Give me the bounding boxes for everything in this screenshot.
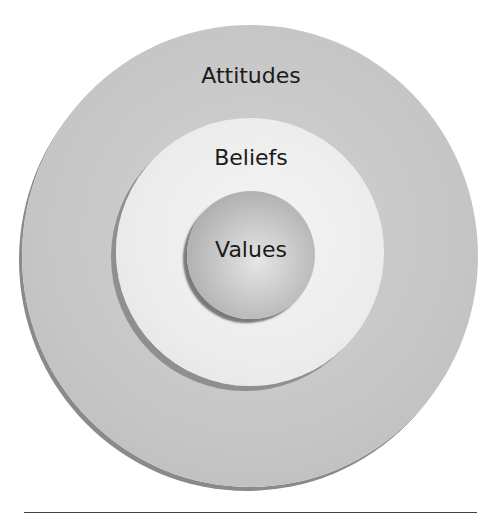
bottom-divider (24, 512, 477, 513)
values-label: Values (151, 237, 351, 262)
attitudes-label: Attitudes (151, 63, 351, 88)
beliefs-label: Beliefs (151, 145, 351, 170)
